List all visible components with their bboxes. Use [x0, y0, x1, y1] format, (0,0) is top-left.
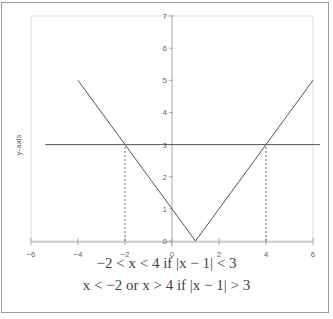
caption-line-2: x < −2 or x > 4 if |x − 1| > 3: [0, 277, 333, 294]
y-tick-label: 1: [163, 205, 168, 214]
y-tick-label: 4: [163, 108, 168, 117]
y-tick-label: 7: [163, 12, 168, 21]
y-tick-label: 6: [163, 44, 168, 53]
series-line: [78, 80, 313, 241]
y-tick-label: 0: [163, 237, 168, 246]
y-axis-title: y-axis: [14, 135, 23, 156]
y-tick-label: 5: [163, 76, 168, 85]
caption-line-1: −2 < x < 4 if |x − 1| < 3: [0, 255, 333, 272]
y-tick-label: 2: [163, 173, 168, 182]
